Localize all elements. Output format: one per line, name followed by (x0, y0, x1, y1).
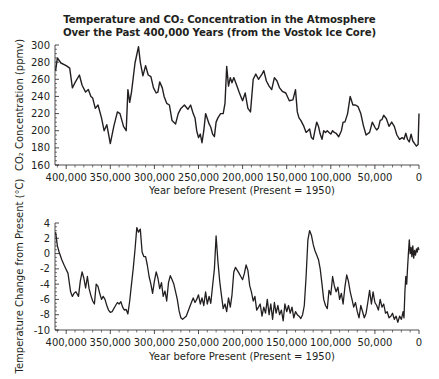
temperature-y-axis: 420-2-4-6-8-10 (34, 218, 59, 336)
co2-y-axis-title: CO₂ Concentration (ppmv) (14, 39, 25, 171)
x-tick-label: 250,000 (178, 172, 219, 183)
y-tick-label: 160 (31, 160, 50, 171)
co2-y-axis: 300280260240220200180160 (31, 40, 59, 171)
temperature-chart: 420-2-4-6-8-10 400,000350,000300,000250,… (14, 178, 422, 374)
y-tick-label: 240 (31, 91, 50, 102)
x-tick-label: 150,000 (266, 337, 307, 348)
co2-x-axis-title: Year before Present (Present = 1950) (148, 185, 335, 196)
y-tick-label: 300 (31, 40, 50, 51)
x-tick-label: 400,000 (46, 172, 87, 183)
x-tick-label: 200,000 (222, 337, 263, 348)
x-tick-label: 200,000 (222, 172, 263, 183)
y-tick-label: -8 (40, 309, 50, 320)
y-tick-label: -2 (40, 263, 50, 274)
x-tick-label: 50,000 (357, 337, 392, 348)
x-tick-label: 50,000 (357, 172, 392, 183)
x-tick-label: 0 (416, 172, 422, 183)
x-tick-label: 400,000 (46, 337, 87, 348)
y-tick-label: 220 (31, 108, 50, 119)
y-tick-label: -4 (40, 279, 50, 290)
y-tick-label: 200 (31, 125, 50, 136)
x-tick-label: 300,000 (134, 337, 175, 348)
x-tick-label: 150,000 (266, 172, 307, 183)
y-tick-label: 280 (31, 57, 50, 68)
temperature-x-axis: 400,000350,000300,000250,000200,000150,0… (46, 330, 423, 348)
x-tick-label: 350,000 (90, 337, 131, 348)
y-tick-label: -10 (34, 325, 50, 336)
vostok-ice-core-charts: 300280260240220200180160 400,000350,0003… (0, 0, 439, 379)
x-tick-label: 350,000 (90, 172, 131, 183)
x-tick-label: 0 (416, 337, 422, 348)
co2-chart: 300280260240220200180160 400,000350,0003… (14, 39, 422, 196)
x-tick-label: 100,000 (310, 337, 351, 348)
temperature-x-axis-title: Year before Present (Present = 1950) (148, 351, 335, 362)
x-tick-label: 250,000 (178, 337, 219, 348)
temperature-series-line (56, 228, 419, 323)
y-tick-label: 2 (44, 233, 50, 244)
y-tick-label: 0 (44, 248, 50, 259)
temperature-y-axis-title: Temperature Change from Present (°C) (14, 178, 25, 374)
x-tick-label: 100,000 (310, 172, 351, 183)
y-tick-label: -6 (40, 294, 50, 305)
co2-x-axis: 400,000350,000300,000250,000200,000150,0… (46, 165, 423, 183)
y-tick-label: 180 (31, 142, 50, 153)
co2-series-line (56, 47, 419, 146)
y-tick-label: 4 (44, 218, 50, 229)
x-tick-label: 300,000 (134, 172, 175, 183)
y-tick-label: 260 (31, 74, 50, 85)
